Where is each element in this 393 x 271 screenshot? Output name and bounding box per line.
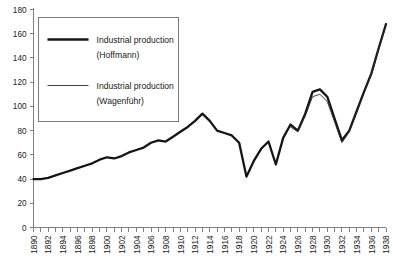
y-tick-label: 120 — [13, 78, 27, 87]
x-tick-label: 1898 — [88, 235, 97, 254]
x-tick-label: 1910 — [177, 235, 186, 254]
legend-label-1-line1: Industrial production — [97, 35, 175, 45]
legend-box — [39, 18, 179, 122]
y-tick-label: 160 — [13, 30, 27, 39]
x-tick-label: 1916 — [221, 235, 230, 254]
x-tick-label: 1904 — [133, 235, 142, 254]
x-tick-label: 1920 — [250, 235, 259, 254]
x-tick-label: 1896 — [74, 235, 83, 254]
y-tick-label: 140 — [13, 54, 27, 63]
x-tick-label: 1894 — [59, 235, 68, 254]
y-tick-label: 40 — [17, 175, 27, 184]
x-tick-label: 1908 — [162, 235, 171, 254]
y-tick-label: 60 — [17, 151, 27, 160]
legend-label-1-line2: (Hoffmann) — [97, 50, 140, 60]
x-axis: 1890189218941896189819001902190419061908… — [30, 228, 392, 254]
x-tick-label: 1924 — [279, 235, 288, 254]
legend-label-2-line1: Industrial production — [97, 81, 175, 91]
x-tick-label: 1900 — [103, 235, 112, 254]
x-tick-label: 1928 — [309, 235, 318, 254]
x-tick-label: 1890 — [30, 235, 39, 254]
y-tick-label: 20 — [17, 199, 27, 208]
industrial-production-chart: 020406080100120140160180 189018921894189… — [0, 0, 393, 271]
x-tick-label: 1914 — [206, 235, 215, 254]
x-tick-label: 1926 — [294, 235, 303, 254]
y-tick-label: 80 — [17, 127, 27, 136]
x-tick-label: 1918 — [235, 235, 244, 254]
x-tick-label: 1938 — [382, 235, 391, 254]
y-axis: 020406080100120140160180 — [13, 6, 34, 233]
y-tick-label: 100 — [13, 102, 27, 111]
x-tick-label: 1930 — [323, 235, 332, 254]
x-tick-label: 1892 — [44, 235, 53, 254]
x-tick-label: 1932 — [338, 235, 347, 254]
series-line-2 — [291, 25, 386, 142]
x-tick-label: 1912 — [191, 235, 200, 254]
y-tick-label: 0 — [22, 224, 27, 233]
x-tick-label: 1906 — [147, 235, 156, 254]
x-tick-label: 1934 — [353, 235, 362, 254]
chart-canvas: 020406080100120140160180 189018921894189… — [0, 0, 393, 271]
y-tick-label: 180 — [13, 6, 27, 15]
x-tick-label: 1902 — [118, 235, 127, 254]
x-tick-label: 1936 — [368, 235, 377, 254]
legend-label-2-line2: (Wagenführ) — [97, 96, 145, 106]
x-tick-label: 1922 — [265, 235, 274, 254]
chart-legend: Industrial production(Hoffmann)Industria… — [39, 18, 179, 122]
